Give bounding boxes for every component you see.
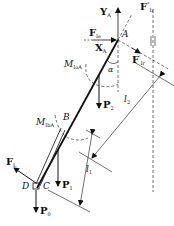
label-P1: P1 [62, 180, 73, 191]
label-D: D [22, 182, 29, 191]
free-body-diagram: YA FIe XA A F"Ir F'Ir MIoA α P2 l2 MIbA … [0, 0, 174, 226]
label-C: C [43, 182, 50, 191]
label-MIbA: MIbA [36, 118, 54, 128]
label-A: A [122, 30, 129, 39]
label-B: B [63, 113, 70, 122]
label-FIr-prime: F'Ir [132, 55, 145, 66]
label-alpha: α [108, 66, 113, 74]
diagram-lines [0, 0, 174, 226]
label-FIr-double-prime: F"Ir [140, 2, 154, 13]
label-l1: l1 [86, 165, 92, 175]
label-MIoA: MIoA [64, 60, 82, 70]
label-YA: YA [100, 7, 111, 18]
label-FL: FL [6, 157, 16, 168]
label-P0: P0 [40, 206, 51, 217]
label-FIe: FIe [89, 28, 101, 39]
label-P2: P2 [103, 100, 114, 111]
label-XA: XA [95, 43, 106, 54]
label-l2: l2 [124, 95, 130, 105]
